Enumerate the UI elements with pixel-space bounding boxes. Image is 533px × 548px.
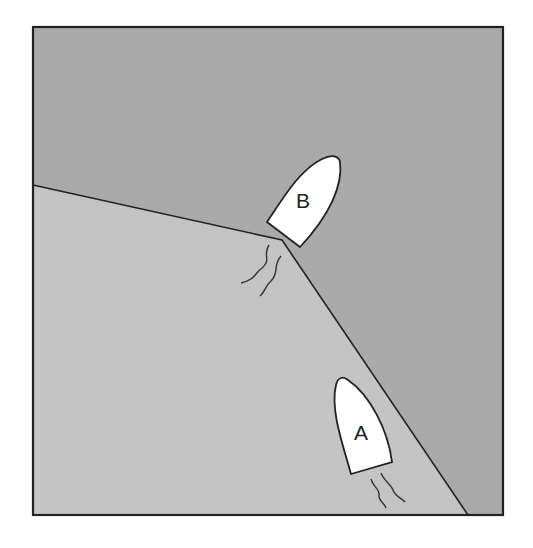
boat-a-label: A	[354, 421, 368, 444]
boat-b-label: B	[296, 189, 310, 212]
boat-diagram: B A	[0, 0, 533, 548]
